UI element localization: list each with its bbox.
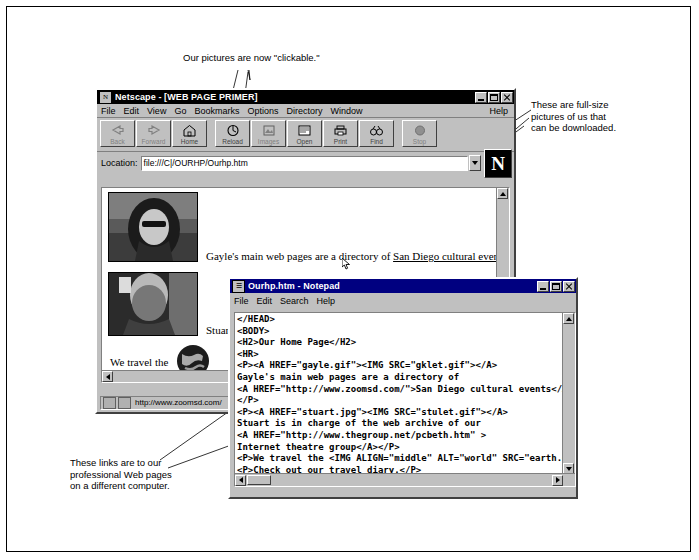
location-label: Location: xyxy=(101,158,138,168)
page-text-travel: We travel the xyxy=(110,356,168,368)
annotation-clickable: Our pictures are now "clickable." xyxy=(183,52,320,64)
notepad-scroll-up-button[interactable] xyxy=(563,313,574,324)
page-link-san-diego[interactable]: San Diego cultural events xyxy=(393,250,506,262)
toolbar-home-button[interactable]: Home xyxy=(172,120,207,147)
annotation-professional-links: These links are to our professional Web … xyxy=(70,457,172,492)
menu-view[interactable]: View xyxy=(147,106,166,116)
binoculars-icon xyxy=(369,123,384,137)
toolbar-open-label: Open xyxy=(297,138,313,145)
maximize-button[interactable] xyxy=(488,92,500,103)
close-button[interactable] xyxy=(501,92,513,103)
toolbar-stop-button[interactable]: Stop xyxy=(402,120,437,147)
scroll-left-button[interactable] xyxy=(102,371,113,382)
netscape-titlebar: N Netscape - [WEB PAGE PRIMER] xyxy=(97,90,514,104)
menu-window[interactable]: Window xyxy=(330,106,362,116)
notepad-minimize-button[interactable] xyxy=(537,281,549,292)
page-image-gayle[interactable] xyxy=(108,192,198,262)
notepad-title-text: Ourhp.htm - Notepad xyxy=(248,281,533,291)
reload-icon xyxy=(226,123,240,137)
chevron-left-icon xyxy=(239,477,243,483)
notepad-menu-edit[interactable]: Edit xyxy=(257,296,273,306)
back-arrow-icon xyxy=(110,123,126,137)
notepad-scroll-right-button[interactable] xyxy=(552,475,563,486)
netscape-toolbar[interactable]: Back Forward Home xyxy=(97,118,514,152)
forward-arrow-icon xyxy=(146,123,162,137)
chevron-left-icon xyxy=(106,374,110,380)
menu-directory[interactable]: Directory xyxy=(286,106,322,116)
toolbar-images-label: Images xyxy=(258,138,279,145)
netscape-window-buttons[interactable] xyxy=(475,92,513,103)
status-url-text: http://www.zoomsd.com/ xyxy=(135,398,222,407)
menu-go[interactable]: Go xyxy=(174,106,186,116)
notepad-maximize-button[interactable] xyxy=(550,281,562,292)
chevron-up-icon xyxy=(500,192,506,196)
toolbar-reload-label: Reload xyxy=(222,138,243,145)
images-icon xyxy=(262,123,276,137)
notepad-menu-file[interactable]: File xyxy=(234,296,249,306)
notepad-titlebar: ☰ Ourhp.htm - Notepad xyxy=(230,279,576,293)
notepad-menubar[interactable]: File Edit Search Help xyxy=(230,293,576,308)
chevron-right-icon xyxy=(556,477,560,483)
netscape-title-text: Netscape - [WEB PAGE PRIMER] xyxy=(115,92,471,102)
toolbar-home-label: Home xyxy=(181,138,198,145)
notepad-horizontal-scrollbar[interactable] xyxy=(235,473,575,486)
toolbar-stop-label: Stop xyxy=(413,138,426,145)
screenshot-root: Our pictures are now "clickable." These … xyxy=(0,0,699,560)
netscape-location-bar[interactable]: Location: file:///C|/OURHP/Ourhp.htm N xyxy=(97,152,514,174)
location-dropdown-button[interactable] xyxy=(469,155,481,171)
mouse-cursor-icon xyxy=(342,258,352,270)
toolbar-print-label: Print xyxy=(334,138,347,145)
notepad-menu-help[interactable]: Help xyxy=(317,296,336,306)
page-text-gayle-prefix: Gayle's main web pages are a directory o… xyxy=(206,250,393,262)
chevron-up-icon xyxy=(566,317,572,321)
menu-bookmarks[interactable]: Bookmarks xyxy=(194,106,239,116)
notepad-menu-search[interactable]: Search xyxy=(280,296,309,306)
notepad-source-code: </HEAD> <BODY> <H2>Our Home Page</H2> <H… xyxy=(237,314,562,487)
menu-edit[interactable]: Edit xyxy=(124,106,140,116)
menu-options[interactable]: Options xyxy=(247,106,278,116)
notepad-vertical-scrollbar[interactable] xyxy=(562,313,575,474)
toolbar-back-label: Back xyxy=(110,138,124,145)
notepad-close-button[interactable] xyxy=(563,281,575,292)
menu-help[interactable]: Help xyxy=(489,106,508,116)
notepad-text-area[interactable]: </HEAD> <BODY> <H2>Our Home Page</H2> <H… xyxy=(234,312,576,487)
page-text-gayle: Gayle's main web pages are a directory o… xyxy=(206,250,506,262)
toolbar-find-button[interactable]: Find xyxy=(359,120,394,147)
netscape-logo-letter: N xyxy=(491,154,505,173)
chevron-down-icon xyxy=(472,161,478,165)
chevron-down-icon xyxy=(566,467,572,471)
location-value: file:///C|/OURHP/Ourhp.htm xyxy=(142,158,248,168)
stop-icon xyxy=(413,123,427,137)
netscape-menubar[interactable]: File Edit View Go Bookmarks Options Dire… xyxy=(97,104,514,118)
location-input[interactable]: file:///C|/OURHP/Ourhp.htm xyxy=(141,156,468,171)
home-icon xyxy=(182,123,197,137)
toolbar-reload-button[interactable]: Reload xyxy=(215,120,250,147)
minimize-button[interactable] xyxy=(475,92,487,103)
toolbar-back-button[interactable]: Back xyxy=(100,120,135,147)
page-image-stuart[interactable] xyxy=(108,272,198,336)
annotation-fullsize-pictures: These are full-size pictures of us that … xyxy=(531,99,616,134)
notepad-window[interactable]: ☰ Ourhp.htm - Notepad File Edit Search H… xyxy=(228,277,578,499)
notepad-hscroll-thumb[interactable] xyxy=(247,475,271,485)
toolbar-find-label: Find xyxy=(370,138,383,145)
toolbar-images-button[interactable]: Images xyxy=(251,120,286,147)
notepad-app-icon: ☰ xyxy=(232,280,245,293)
printer-icon xyxy=(333,123,348,137)
toolbar-print-button[interactable]: Print xyxy=(323,120,358,147)
netscape-app-icon: N xyxy=(99,91,112,104)
notepad-scroll-left-button[interactable] xyxy=(235,475,246,486)
toolbar-forward-label: Forward xyxy=(142,138,166,145)
mail-status-icon[interactable] xyxy=(103,397,116,409)
scroll-up-button[interactable] xyxy=(497,188,508,199)
status-icons xyxy=(103,397,131,409)
security-status-icon[interactable] xyxy=(118,397,131,409)
page-text-travel-value: We travel the xyxy=(110,356,168,368)
menu-file[interactable]: File xyxy=(101,106,116,116)
notepad-window-buttons[interactable] xyxy=(537,281,575,292)
netscape-logo[interactable]: N xyxy=(484,149,512,178)
toolbar-forward-button[interactable]: Forward xyxy=(136,120,171,147)
open-icon xyxy=(297,123,312,137)
toolbar-open-button[interactable]: Open xyxy=(287,120,322,147)
